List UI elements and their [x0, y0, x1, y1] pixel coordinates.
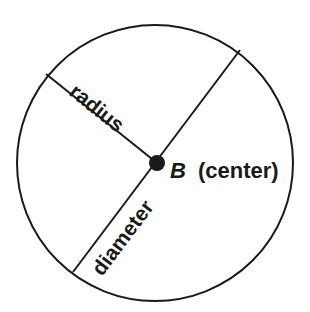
- diameter-label: diameter: [87, 196, 158, 280]
- radius-label: radius: [65, 79, 129, 136]
- center-point-name: B: [170, 158, 186, 183]
- center-label: B (center): [170, 158, 279, 183]
- center-text: (center): [198, 158, 279, 183]
- circle-diagram: radius diameter B (center): [0, 0, 310, 312]
- center-point-dot: [149, 155, 165, 171]
